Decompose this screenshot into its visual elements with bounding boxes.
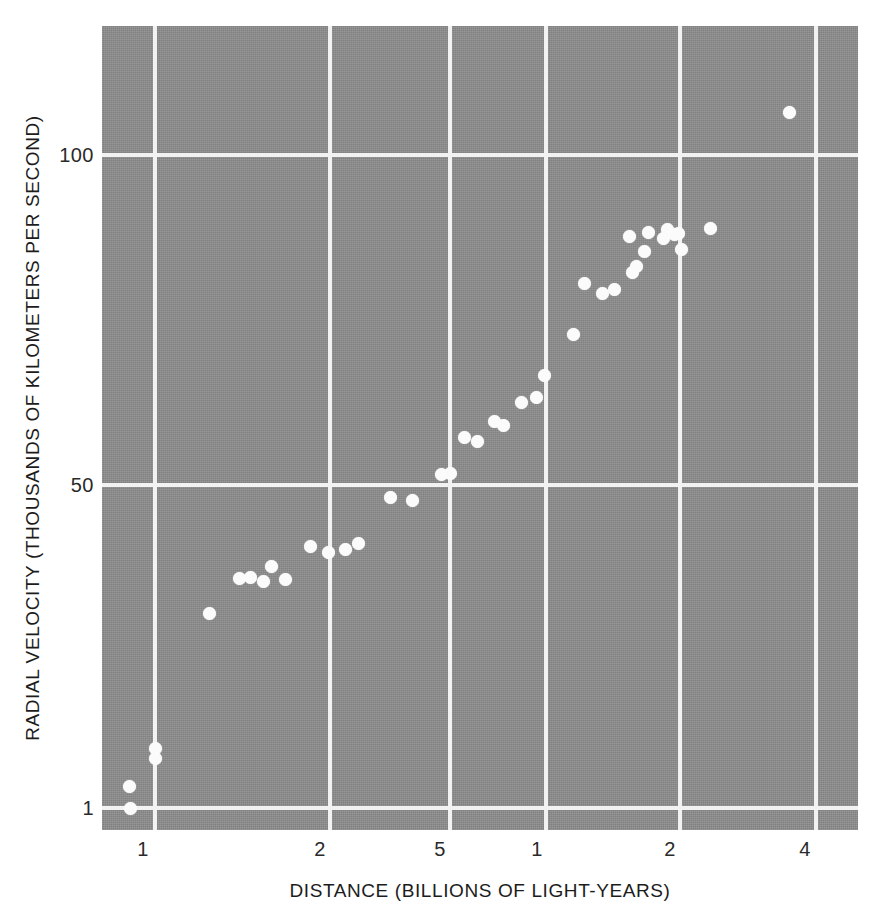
y-axis-title: RADIAL VELOCITY (THOUSANDS OF KILOMETERS… <box>22 26 56 830</box>
gridline-vertical-4 <box>678 26 682 830</box>
scatter-point <box>596 287 609 300</box>
scatter-point <box>444 467 457 480</box>
scatter-point <box>672 227 685 240</box>
scatter-point <box>608 283 621 296</box>
scatter-point <box>352 537 365 550</box>
scatter-point <box>322 546 335 559</box>
x-tick-label-0: 1 <box>137 838 149 861</box>
scatter-point <box>783 106 796 119</box>
scatter-point <box>471 435 484 448</box>
scatter-point <box>265 560 278 573</box>
scatter-point <box>203 607 216 620</box>
x-tick-label-1: 2 <box>314 838 326 861</box>
scatter-point <box>630 260 643 273</box>
scatter-point <box>530 391 543 404</box>
scatter-point <box>642 226 655 239</box>
scatter-point <box>304 540 317 553</box>
gridline-vertical-0 <box>153 26 157 830</box>
scatter-point <box>257 575 270 588</box>
scatter-point <box>279 573 292 586</box>
scatter-point <box>497 419 510 432</box>
scatter-point <box>638 245 651 258</box>
scatter-point <box>515 396 528 409</box>
x-tick-label-4: 2 <box>664 838 676 861</box>
x-tick-label-5: 4 <box>799 838 811 861</box>
scatter-point <box>244 571 257 584</box>
scatter-point <box>567 328 580 341</box>
gridline-vertical-5 <box>814 26 818 830</box>
scatter-point <box>704 222 717 235</box>
gridline-horizontal-1 <box>102 483 858 487</box>
x-tick-label-3: 1 <box>531 838 543 861</box>
scatter-point <box>124 802 137 815</box>
scatter-point <box>339 543 352 556</box>
plot-area <box>102 26 858 830</box>
scatter-point <box>578 277 591 290</box>
scatter-point <box>149 752 162 765</box>
plot-halftone-texture <box>102 26 858 830</box>
x-axis-title: DISTANCE (BILLIONS OF LIGHT-YEARS) <box>102 880 858 902</box>
scatter-point <box>538 369 551 382</box>
scatter-point <box>384 491 397 504</box>
hubble-diagram-figure: 125124 100501 DISTANCE (BILLIONS OF LIGH… <box>0 0 886 911</box>
gridline-vertical-2 <box>448 26 452 830</box>
scatter-point <box>675 243 688 256</box>
gridline-vertical-3 <box>544 26 548 830</box>
x-tick-label-2: 5 <box>434 838 446 861</box>
scatter-point <box>406 494 419 507</box>
scatter-point <box>458 431 471 444</box>
gridline-horizontal-0 <box>102 153 858 157</box>
scatter-point <box>123 780 136 793</box>
gridline-horizontal-2 <box>102 806 858 810</box>
gridline-vertical-1 <box>328 26 332 830</box>
scatter-point <box>623 230 636 243</box>
